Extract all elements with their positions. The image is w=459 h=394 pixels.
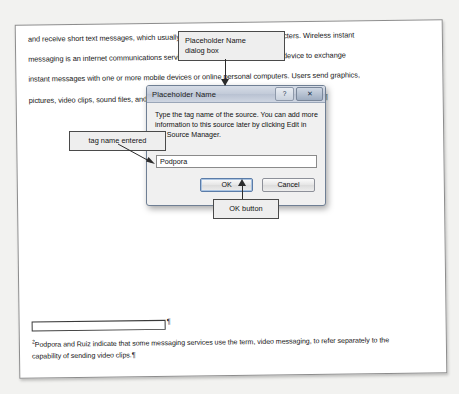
- callout-dialog-box-arrowhead-icon: [221, 79, 229, 86]
- placeholder-name-dialog: Placeholder Name ? ✕ Type the tag name o…: [146, 85, 326, 206]
- tag-name-input[interactable]: [156, 155, 317, 168]
- dialog-title: Placeholder Name: [152, 90, 275, 99]
- footnote-line-2-text: capability of sending video clips.: [32, 351, 132, 360]
- dialog-button-row: OK Cancel: [155, 168, 318, 199]
- callout-ok-button: OK button: [213, 199, 279, 219]
- dialog-message: Type the tag name of the source. You can…: [155, 110, 318, 140]
- footnote-line-2: capability of sending video clips.¶: [32, 346, 438, 360]
- tag-name-field-wrap: [155, 150, 318, 168]
- footnote-paragraph-mark-icon: ¶: [132, 350, 136, 359]
- body-line-3: instant messages with one or more mobile…: [28, 69, 432, 83]
- footnote-separator-paragraph-mark-icon: ¶: [167, 317, 171, 326]
- footnote-separator: [32, 320, 166, 332]
- dialog-caption-buttons: ? ✕: [275, 87, 323, 101]
- callout-tag-name-leader: [118, 144, 158, 167]
- dialog-title-bar[interactable]: Placeholder Name ? ✕: [147, 86, 325, 103]
- screenshot-root: and receive short text messages, which u…: [0, 0, 459, 394]
- close-icon[interactable]: ✕: [296, 87, 323, 101]
- cancel-button[interactable]: Cancel: [262, 178, 315, 192]
- dialog-body: Type the tag name of the source. You can…: [147, 103, 325, 205]
- callout-ok-button-arrowhead-icon: [238, 179, 246, 186]
- callout-dialog-box: Placeholder Name dialog box: [178, 31, 285, 61]
- callout-ok-button-leader: [242, 185, 243, 199]
- help-icon[interactable]: ?: [275, 87, 294, 101]
